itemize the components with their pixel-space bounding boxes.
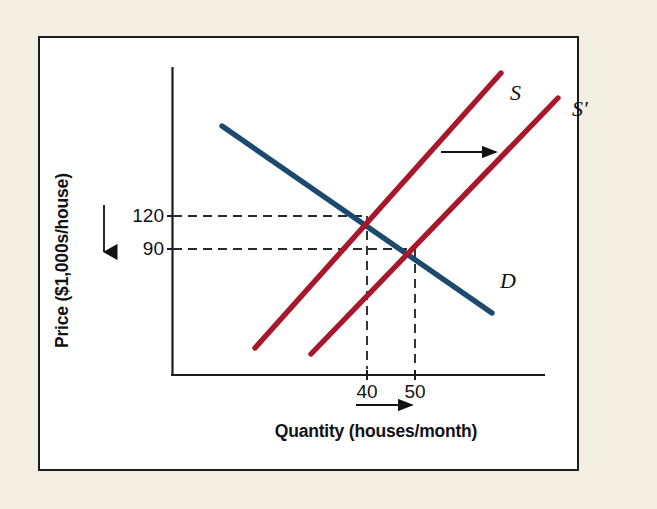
supply-curve-label: S	[510, 80, 521, 106]
y-axis-title: Price ($1,000s/house)	[52, 173, 72, 348]
x-axis-title: Quantity (houses/month)	[172, 421, 580, 442]
y-tick-label-90: 90	[108, 238, 164, 260]
demand-curve-label: D	[500, 268, 516, 294]
y-tick-label-120: 120	[108, 205, 164, 227]
supply-curve	[255, 73, 501, 348]
supply-shifted-curve-label: S'	[572, 96, 588, 122]
x-tick-label-40: 40	[343, 381, 391, 403]
demand-curve	[222, 126, 492, 313]
x-tick-label-50: 50	[391, 381, 439, 403]
figure-root: Price ($1,000s/house) Quantity (houses/m…	[0, 0, 657, 509]
supply-curve-shifted	[311, 98, 558, 354]
